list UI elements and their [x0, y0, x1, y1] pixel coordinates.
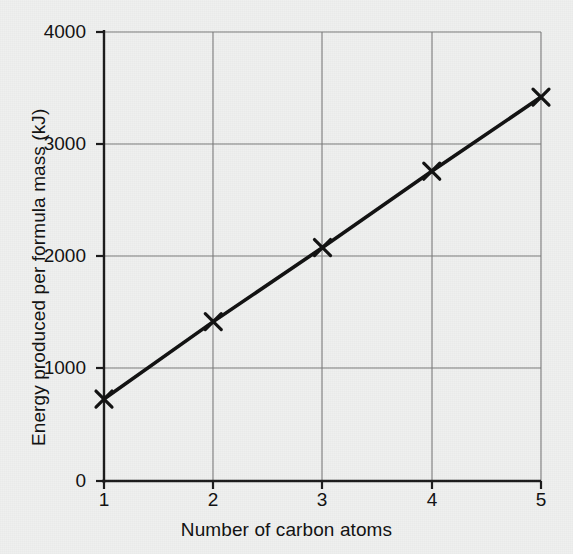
gridlines — [104, 32, 541, 481]
tick-marks — [96, 32, 541, 489]
plot-area — [0, 0, 573, 554]
chart-container: Energy produced per formula mass (kJ) Nu… — [0, 0, 573, 554]
